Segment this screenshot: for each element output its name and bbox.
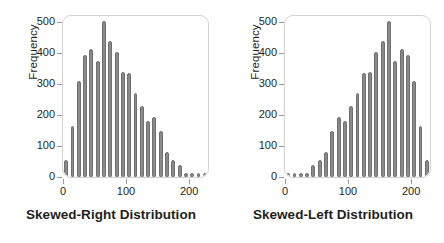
x-tick-label: 200 bbox=[169, 185, 209, 197]
histogram-bar bbox=[349, 106, 353, 177]
histogram-bar bbox=[324, 152, 328, 177]
histogram-bar bbox=[171, 160, 175, 177]
histogram-bar bbox=[108, 41, 112, 177]
histogram-bar bbox=[425, 160, 429, 177]
x-tick-label: 0 bbox=[43, 185, 83, 197]
histogram-bar bbox=[368, 72, 372, 177]
x-tick-label: 100 bbox=[328, 185, 368, 197]
x-tick-mark bbox=[348, 179, 349, 184]
histogram-bar bbox=[311, 165, 315, 177]
histogram-bar bbox=[286, 173, 290, 177]
histogram-bar bbox=[146, 121, 150, 177]
histogram-bar bbox=[374, 52, 378, 177]
histogram-bar bbox=[89, 49, 93, 177]
histogram-bar bbox=[400, 49, 404, 177]
histogram-bar bbox=[190, 173, 194, 177]
panel-caption-right: Skewed-Left Distribution bbox=[222, 207, 444, 222]
histogram-bar bbox=[393, 61, 397, 177]
histogram-bar bbox=[159, 131, 163, 177]
y-tick-label: 500 bbox=[21, 15, 55, 27]
histogram-bar bbox=[121, 72, 125, 177]
y-tick-label: 400 bbox=[243, 46, 277, 58]
histogram-bar bbox=[305, 173, 309, 177]
histogram-bar bbox=[412, 81, 416, 177]
histogram-bar bbox=[83, 55, 87, 177]
histogram-bar bbox=[299, 173, 303, 177]
y-tick-label: 500 bbox=[243, 15, 277, 27]
figure-root: Frequency 0100200300400500 0100200 Skewe… bbox=[0, 0, 444, 243]
histogram-bar bbox=[419, 126, 423, 177]
y-tick-mark bbox=[279, 177, 284, 178]
histogram-bar bbox=[343, 121, 347, 177]
x-tick-mark bbox=[285, 179, 286, 184]
histogram-bar bbox=[197, 173, 201, 177]
histogram-bar bbox=[337, 117, 341, 177]
histogram-bar bbox=[96, 61, 100, 177]
histogram-bar bbox=[127, 73, 131, 177]
y-tick-label: 300 bbox=[243, 77, 277, 89]
x-tick-mark bbox=[63, 179, 64, 184]
histogram-bar bbox=[293, 173, 297, 177]
histogram-bar bbox=[71, 126, 75, 177]
histogram-bar bbox=[184, 173, 188, 177]
histogram-bar bbox=[381, 41, 385, 177]
plot-area-left bbox=[63, 16, 208, 177]
x-tick-label: 200 bbox=[391, 185, 431, 197]
histogram-bar bbox=[115, 52, 119, 177]
plot-frame-right bbox=[284, 15, 431, 178]
y-tick-label: 200 bbox=[21, 108, 55, 120]
histogram-bar bbox=[178, 165, 182, 177]
y-tick-label: 100 bbox=[21, 139, 55, 151]
histogram-bar bbox=[203, 173, 207, 177]
y-tick-mark bbox=[57, 177, 62, 178]
histogram-bar bbox=[77, 81, 81, 177]
histogram-bar bbox=[318, 160, 322, 177]
histogram-bar bbox=[102, 21, 106, 177]
x-tick-mark bbox=[189, 179, 190, 184]
y-tick-label: 0 bbox=[21, 170, 55, 182]
panel-caption-left: Skewed-Right Distribution bbox=[0, 207, 222, 222]
x-tick-label: 0 bbox=[265, 185, 305, 197]
histogram-bar bbox=[152, 117, 156, 177]
x-tick-label: 100 bbox=[106, 185, 146, 197]
histogram-bar bbox=[356, 93, 360, 177]
histogram-bar bbox=[330, 131, 334, 177]
y-tick-label: 100 bbox=[243, 139, 277, 151]
y-tick-label: 0 bbox=[243, 170, 277, 182]
histogram-bar bbox=[165, 152, 169, 177]
y-tick-label: 200 bbox=[243, 108, 277, 120]
panel-skewed-right: Frequency 0100200300400500 0100200 Skewe… bbox=[0, 0, 222, 243]
y-tick-label: 400 bbox=[21, 46, 55, 58]
histogram-bar bbox=[406, 55, 410, 177]
y-tick-label: 300 bbox=[21, 77, 55, 89]
histogram-bar bbox=[387, 21, 391, 177]
histogram-bar bbox=[64, 160, 68, 177]
plot-frame-left bbox=[62, 15, 209, 178]
histogram-bar bbox=[140, 106, 144, 177]
x-tick-mark bbox=[411, 179, 412, 184]
plot-area-right bbox=[285, 16, 430, 177]
histogram-bar bbox=[362, 73, 366, 177]
histogram-bar bbox=[134, 93, 138, 177]
x-tick-mark bbox=[126, 179, 127, 184]
panel-skewed-left: Frequency 0100200300400500 0100200 Skewe… bbox=[222, 0, 444, 243]
